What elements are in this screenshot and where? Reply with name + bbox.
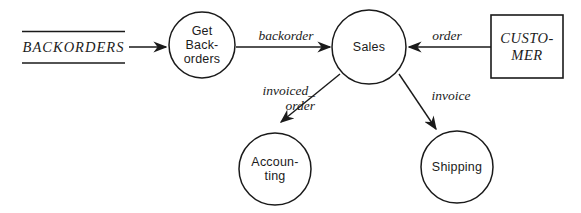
process-accounting-label: Accoun- ting: [238, 132, 312, 206]
process-shipping-label: Shipping: [421, 130, 493, 204]
process-sales-text: Sales: [353, 40, 385, 54]
process-accounting-line1: Accoun-: [251, 155, 298, 169]
dataflow-diagram: BACKORDERS Get Back- orders Sales CUSTO-…: [0, 0, 581, 213]
flow-invoice-label: invoice: [424, 88, 478, 103]
entity-customer-label: CUSTO- MER: [491, 15, 563, 78]
process-get-backorders-line1: Get: [192, 24, 213, 38]
process-sales-label: Sales: [332, 10, 406, 84]
entity-customer-line1: CUSTO-: [500, 30, 554, 47]
entity-customer-line2: MER: [511, 47, 542, 64]
process-accounting-line2: ting: [265, 169, 286, 183]
process-get-backorders-line2: Back-: [186, 38, 219, 52]
backorders-store-label: BACKORDERS: [22, 33, 125, 61]
process-get-backorders-label: Get Back- orders: [162, 12, 242, 78]
flow-order-label: order: [407, 28, 487, 43]
flow-invoiced-order-label: invoiced_ order: [230, 83, 315, 113]
flow-invoiced-order-line1: invoiced_: [230, 83, 315, 98]
process-shipping-text: Shipping: [432, 160, 482, 174]
process-get-backorders-line3: orders: [184, 52, 221, 66]
flow-invoiced-order-line2: order: [230, 98, 315, 113]
flow-backorder-label: backorder: [236, 28, 336, 43]
